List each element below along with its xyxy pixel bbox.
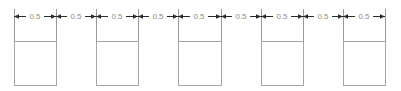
drawing-svg: 0.50.50.50.50.50.50.50.50.5 — [0, 0, 401, 91]
dimension-label: 0.5 — [358, 12, 370, 21]
dimension-label: 0.5 — [29, 12, 41, 21]
arrow-head-right-icon — [338, 14, 343, 18]
arrow-head-right-icon — [91, 14, 96, 18]
arrow-head-right-icon — [298, 14, 303, 18]
square-box — [179, 42, 222, 86]
dimension-labels-group: 0.50.50.50.50.50.50.50.50.5 — [29, 12, 370, 21]
arrow-head-right-icon — [256, 14, 261, 18]
square-box — [344, 42, 386, 86]
dimension-label: 0.5 — [152, 12, 164, 21]
arrow-head-right-icon — [51, 14, 56, 18]
square-box — [97, 42, 139, 86]
arrow-head-right-icon — [133, 14, 138, 18]
arrow-head-right-icon — [380, 14, 385, 18]
arrow-head-right-icon — [216, 14, 221, 18]
square-box — [262, 42, 304, 86]
dimension-label: 0.5 — [193, 12, 205, 21]
dimension-label: 0.5 — [276, 12, 288, 21]
technical-drawing-canvas: 0.50.50.50.50.50.50.50.50.5 — [0, 0, 401, 91]
arrow-head-right-icon — [173, 14, 178, 18]
dimension-label: 0.5 — [317, 12, 329, 21]
dimension-label: 0.5 — [70, 12, 82, 21]
boxes-group — [15, 42, 386, 86]
dimension-label: 0.5 — [111, 12, 123, 21]
dimension-label: 0.5 — [235, 12, 247, 21]
square-box — [15, 42, 57, 86]
